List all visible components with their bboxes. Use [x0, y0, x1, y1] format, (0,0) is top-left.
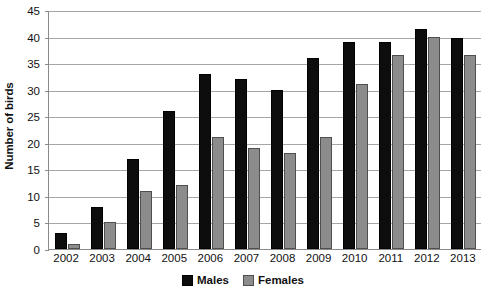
bar-females-2013[interactable] [464, 55, 476, 249]
bar-chart: Number of birds 454035302520151050 20022… [0, 0, 486, 297]
y-axis-tick-30: 30 [27, 85, 40, 97]
x-axis-tick-2013: 2013 [445, 252, 481, 272]
bar-group-2006 [193, 11, 229, 249]
bar-females-2008[interactable] [284, 153, 296, 249]
legend-item-males[interactable]: Males [182, 274, 229, 286]
bar-males-2010[interactable] [343, 42, 355, 249]
bar-males-2012[interactable] [415, 29, 427, 249]
y-axis-tick-0: 0 [34, 244, 40, 256]
bar-group-2011 [373, 11, 409, 249]
legend-label: Males [197, 274, 229, 286]
plot-area [48, 11, 481, 250]
y-axis-title-label: Number of birds [3, 82, 15, 169]
bar-females-2005[interactable] [176, 185, 188, 249]
bar-females-2012[interactable] [428, 37, 440, 249]
y-axis-tick-45: 45 [27, 5, 40, 17]
bar-males-2002[interactable] [55, 233, 67, 249]
x-axis-tick-2008: 2008 [264, 252, 300, 272]
bar-females-2010[interactable] [356, 84, 368, 249]
x-axis-tick-2012: 2012 [409, 252, 445, 272]
x-axis-tick-2004: 2004 [120, 252, 156, 272]
y-axis-tick-20: 20 [27, 138, 40, 150]
bar-group-2013 [445, 11, 481, 249]
bar-males-2011[interactable] [379, 42, 391, 249]
y-axis-tick-40: 40 [27, 32, 40, 44]
bar-group-2012 [409, 11, 445, 249]
legend-label: Females [258, 274, 304, 286]
x-axis-tick-2002: 2002 [48, 252, 84, 272]
bar-group-2008 [265, 11, 301, 249]
bar-males-2009[interactable] [307, 58, 319, 249]
legend-item-females[interactable]: Females [243, 274, 304, 286]
bar-females-2011[interactable] [392, 55, 404, 249]
x-axis-tick-2006: 2006 [192, 252, 228, 272]
bars-layer [49, 11, 481, 249]
bar-males-2005[interactable] [163, 111, 175, 249]
y-axis-tick-5: 5 [34, 217, 40, 229]
x-axis-tick-2010: 2010 [337, 252, 373, 272]
bar-group-2010 [337, 11, 373, 249]
legend-swatch-icon [182, 275, 193, 286]
y-axis-tick-labels: 454035302520151050 [16, 0, 44, 252]
y-axis-tick-35: 35 [27, 58, 40, 70]
y-axis-tickmark [45, 250, 49, 251]
bar-group-2007 [229, 11, 265, 249]
y-axis-tick-25: 25 [27, 111, 40, 123]
x-axis-tick-2009: 2009 [301, 252, 337, 272]
x-axis-tick-2007: 2007 [228, 252, 264, 272]
x-axis-tick-2003: 2003 [84, 252, 120, 272]
x-axis-tick-labels: 2002200320042005200620072008200920102011… [48, 252, 481, 272]
bar-males-2006[interactable] [199, 74, 211, 249]
bar-males-2013[interactable] [451, 38, 463, 249]
bar-males-2007[interactable] [235, 79, 247, 249]
bar-group-2004 [121, 11, 157, 249]
bar-females-2004[interactable] [140, 191, 152, 249]
y-axis-tick-10: 10 [27, 191, 40, 203]
x-axis-tick-2011: 2011 [373, 252, 409, 272]
bar-females-2003[interactable] [104, 222, 116, 249]
bar-females-2009[interactable] [320, 137, 332, 249]
bar-group-2009 [301, 11, 337, 249]
bar-males-2008[interactable] [271, 90, 283, 249]
bar-group-2002 [49, 11, 85, 249]
bar-group-2005 [157, 11, 193, 249]
bar-males-2004[interactable] [127, 159, 139, 249]
bar-males-2003[interactable] [91, 207, 103, 249]
x-axis-tick-2005: 2005 [156, 252, 192, 272]
y-axis-tick-15: 15 [27, 164, 40, 176]
legend-swatch-icon [243, 275, 254, 286]
bar-females-2007[interactable] [248, 148, 260, 249]
bar-group-2003 [85, 11, 121, 249]
chart-legend: MalesFemales [0, 274, 486, 286]
bar-females-2006[interactable] [212, 137, 224, 249]
bar-females-2002[interactable] [68, 244, 80, 249]
